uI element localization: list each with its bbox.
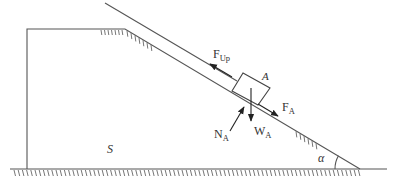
ground-hatching [14,170,360,176]
rope-line [105,3,237,81]
normal-arrow [230,107,244,131]
label-force-a: FA [282,100,296,116]
label-force-up: FUp [213,47,230,63]
label-block: A [261,70,269,82]
label-weight: WA [254,124,272,140]
label-normal: NA [214,127,230,143]
force-up-arrow [210,64,232,77]
surface-hatching [101,30,317,149]
diagram-canvas: FUp A FA NA WA S α [0,0,396,191]
label-support: S [107,142,113,156]
angle-arc [335,156,339,169]
ground [10,169,387,176]
label-angle: α [318,151,325,165]
support-body [27,29,360,169]
